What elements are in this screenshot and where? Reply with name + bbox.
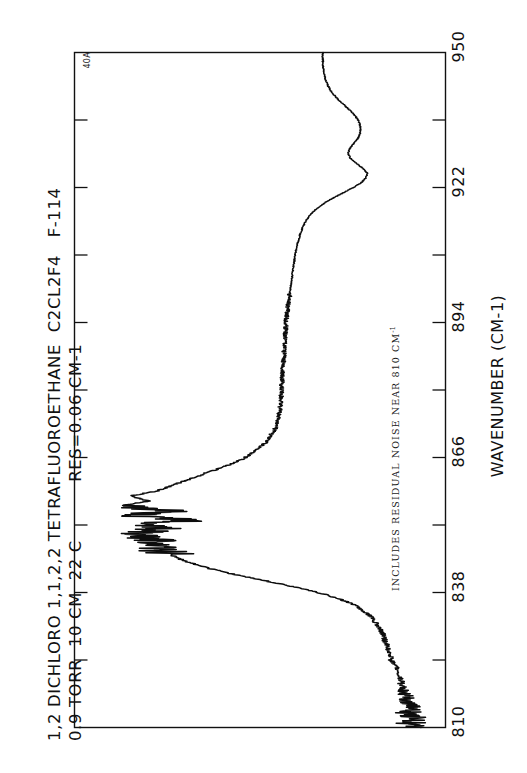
axis-tick-label: 950 <box>448 30 467 62</box>
x-axis-title: WAVENUMBER (CM-1) <box>488 295 507 478</box>
residual-noise-note-superscript: -1 <box>389 326 397 333</box>
axis-tick-label: 894 <box>448 300 467 332</box>
residual-noise-note: INCLUDES RESIDUAL NOISE NEAR 810 CM-1 <box>389 326 401 591</box>
axis-tick-label: 922 <box>448 165 467 197</box>
axis-tick-label: 866 <box>448 435 467 467</box>
axis-tick-label: 810 <box>448 705 467 737</box>
spectrum-plot <box>0 0 527 773</box>
axis-tick-label: 838 <box>448 570 467 602</box>
ordinate-scale-annotation: 40A <box>83 52 92 88</box>
residual-noise-note-text: INCLUDES RESIDUAL NOISE NEAR 810 CM <box>390 333 401 591</box>
spectrum-sheet: 1,2 DICHLORO 1,1,2,2 TETRAFLUOROETHANE C… <box>0 0 527 773</box>
